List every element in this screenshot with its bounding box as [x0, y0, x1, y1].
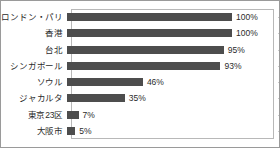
bar-value-label: 100% [236, 12, 258, 22]
category-label: 東京23区 [1, 110, 67, 120]
bar [67, 29, 232, 37]
bar-rows: ロンドン・パリ 100% 香港 100% 台北 [1, 9, 280, 139]
axis-tick [278, 17, 280, 18]
category-label: 大阪市 [1, 126, 67, 136]
axis-tick [278, 66, 280, 67]
axis-tick [278, 131, 280, 132]
bar-track: 35% [67, 90, 280, 106]
bar-row: ソウル 46% [1, 74, 280, 90]
bar-value-label: 46% [147, 77, 164, 87]
bar-value-label: 35% [129, 93, 146, 103]
chart-frame: ロンドン・パリ 100% 香港 100% 台北 [0, 0, 280, 148]
bar [67, 13, 232, 21]
bar-row: ジャカルタ 35% [1, 90, 280, 106]
bar-track: 100% [67, 9, 280, 25]
bar-chart: ロンドン・パリ 100% 香港 100% 台北 [1, 1, 280, 148]
axis-tick [278, 98, 280, 99]
bar-value-label: 7% [83, 110, 95, 120]
bar-row: シンガポール 93% [1, 58, 280, 74]
bar-track: 93% [67, 58, 280, 74]
bar-row: ロンドン・パリ 100% [1, 9, 280, 25]
bar-row: 香港 100% [1, 25, 280, 41]
bar-track: 46% [67, 74, 280, 90]
category-label: ロンドン・パリ [1, 12, 67, 22]
category-label: シンガポール [1, 61, 67, 71]
bar [67, 46, 224, 54]
bar-track: 100% [67, 25, 280, 41]
bar [67, 78, 143, 86]
category-label: 台北 [1, 45, 67, 55]
bar-track: 7% [67, 107, 280, 123]
axis-tick [278, 82, 280, 83]
bar [67, 127, 75, 135]
bar [67, 111, 79, 119]
bar-row: 東京23区 7% [1, 107, 280, 123]
bar-value-label: 93% [224, 61, 241, 71]
bar-track: 95% [67, 42, 280, 58]
bar-value-label: 100% [236, 28, 258, 38]
axis-tick [278, 33, 280, 34]
category-label: ジャカルタ [1, 93, 67, 103]
axis-tick [278, 115, 280, 116]
bar-row: 台北 95% [1, 42, 280, 58]
axis-tick [278, 50, 280, 51]
bar-track: 5% [67, 123, 280, 139]
bar-value-label: 95% [228, 45, 245, 55]
bar [67, 62, 220, 70]
category-label: ソウル [1, 77, 67, 87]
bar [67, 94, 125, 102]
category-label: 香港 [1, 28, 67, 38]
bar-value-label: 5% [79, 126, 91, 136]
bar-row: 大阪市 5% [1, 123, 280, 139]
